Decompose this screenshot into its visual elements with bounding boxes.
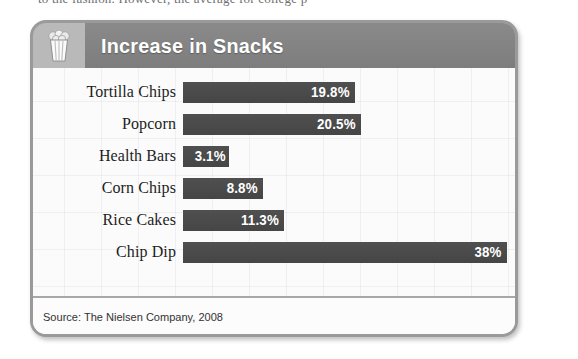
popcorn-bucket-icon: [46, 30, 72, 62]
bar-value-label: 20.5%: [317, 116, 356, 132]
bar-track: 3.1%: [183, 140, 515, 172]
bar-category-label: Chip Dip: [33, 243, 183, 261]
bar-popcorn: 20.5%: [183, 114, 361, 135]
bar-corn-chips: 8.8%: [183, 178, 263, 199]
source-note: Source: The Nielsen Company, 2008: [43, 311, 223, 323]
chart-row: Rice Cakes 11.3%: [33, 204, 515, 236]
bar-track: 11.3%: [183, 204, 515, 236]
chart-plot-area: Tortilla Chips 19.8% Popcorn 20.5% Healt…: [33, 68, 515, 296]
bar-rice-cakes: 11.3%: [183, 210, 284, 231]
bar-health-bars: 3.1%: [183, 146, 229, 167]
bar-category-label: Rice Cakes: [33, 211, 183, 229]
page-bleed-text: to the fashion. However, the average for…: [38, 0, 307, 7]
chart-title: Increase in Snacks: [101, 34, 284, 58]
chart-header: Increase in Snacks: [33, 23, 515, 68]
chart-row: Health Bars 3.1%: [33, 140, 515, 172]
chart-row: Corn Chips 8.8%: [33, 172, 515, 204]
page-text-bleed: to the fashion. However, the average for…: [0, 0, 578, 14]
chart-row: Tortilla Chips 19.8%: [33, 76, 515, 108]
bar-category-label: Corn Chips: [33, 179, 183, 197]
snacks-chart-panel: Increase in Snacks Tortilla Chips 19.8% …: [30, 20, 518, 337]
chart-row: Popcorn 20.5%: [33, 108, 515, 140]
bar-value-label: 11.3%: [241, 212, 279, 228]
bar-track: 38%: [183, 236, 515, 268]
chart-footer: Source: The Nielsen Company, 2008: [33, 296, 515, 336]
bar-value-label: 3.1%: [195, 148, 226, 164]
header-icon-tile: [33, 23, 85, 68]
bar-category-label: Health Bars: [33, 147, 183, 165]
bar-category-label: Tortilla Chips: [33, 83, 183, 101]
bar-tortilla-chips: 19.8%: [183, 82, 355, 103]
bar-track: 20.5%: [183, 108, 515, 140]
chart-row: Chip Dip 38%: [33, 236, 515, 268]
bar-value-label: 38%: [475, 244, 502, 260]
bar-category-label: Popcorn: [33, 115, 183, 133]
bar-value-label: 19.8%: [311, 84, 350, 100]
bar-value-label: 8.8%: [227, 180, 258, 196]
bar-chip-dip: 38%: [183, 242, 507, 263]
bar-track: 19.8%: [183, 76, 515, 108]
bar-track: 8.8%: [183, 172, 515, 204]
